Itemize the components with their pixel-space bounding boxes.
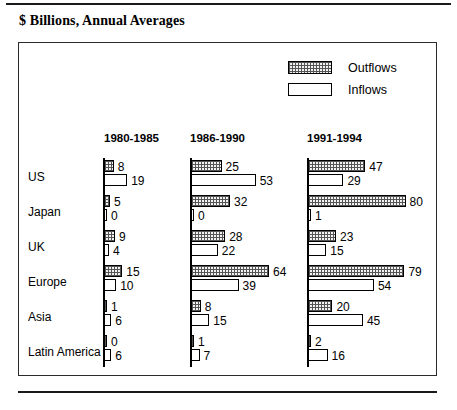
bar-inflow-latin-america-p2: [191, 349, 200, 361]
value-label-inflow-asia-p1: 6: [115, 315, 122, 327]
value-label-outflow-japan-p3: 80: [410, 196, 423, 208]
bar-inflow-europe-p3: [308, 279, 374, 291]
value-label-inflow-uk-p1: 4: [113, 245, 120, 257]
value-label-outflow-japan-p1: 5: [114, 196, 121, 208]
bar-outflow-asia-p1: [104, 300, 107, 312]
bar-outflow-us-p3: [308, 160, 365, 172]
value-label-inflow-latin-america-p3: 16: [332, 350, 345, 362]
value-label-outflow-us-p1: 8: [118, 161, 125, 173]
bar-outflow-us-p1: [104, 160, 114, 172]
bar-outflow-uk-p3: [308, 230, 336, 242]
value-label-outflow-uk-p2: 28: [229, 231, 242, 243]
bar-inflow-uk-p3: [308, 244, 326, 256]
value-label-outflow-uk-p3: 23: [340, 231, 353, 243]
chart-legend: Outflows Inflows: [288, 59, 397, 103]
top-rule: [6, 3, 451, 5]
value-label-inflow-japan-p2: 0: [198, 210, 205, 222]
bar-inflow-europe-p1: [104, 279, 116, 291]
bar-inflow-europe-p2: [191, 279, 239, 291]
bar-outflow-japan-p3: [308, 195, 406, 207]
bar-inflow-us-p2: [191, 174, 256, 186]
bar-inflow-asia-p1: [104, 314, 111, 326]
value-label-outflow-europe-p2: 64: [273, 266, 286, 278]
bar-outflow-latin-america-p3: [308, 335, 311, 347]
value-label-inflow-latin-america-p1: 6: [115, 350, 122, 362]
bottom-rule: [18, 391, 437, 393]
value-label-outflow-europe-p1: 15: [126, 266, 139, 278]
period-header-1: 1980-1985: [104, 132, 159, 144]
period-header-3: 1991-1994: [307, 132, 362, 144]
value-label-inflow-japan-p3: 1: [315, 210, 322, 222]
value-label-outflow-asia-p1: 1: [111, 301, 118, 313]
bar-outflow-japan-p2: [191, 195, 230, 207]
row-label-us: US: [28, 170, 45, 184]
bar-inflow-japan-p3: [308, 209, 311, 221]
bar-inflow-asia-p3: [308, 314, 363, 326]
value-label-inflow-us-p3: 29: [347, 175, 360, 187]
bar-outflow-us-p2: [191, 160, 222, 172]
value-label-outflow-us-p3: 47: [369, 161, 382, 173]
legend-swatch-outflows: [288, 61, 332, 74]
legend-swatch-inflows: [288, 83, 332, 96]
bar-outflow-uk-p1: [104, 230, 115, 242]
value-label-outflow-asia-p2: 8: [205, 301, 212, 313]
value-label-outflow-us-p2: 25: [226, 161, 239, 173]
value-label-outflow-latin-america-p3: 2: [315, 336, 322, 348]
value-label-inflow-uk-p2: 22: [222, 245, 235, 257]
bar-outflow-latin-america-p2: [191, 335, 194, 347]
legend-item-outflows: Outflows: [288, 59, 397, 76]
bar-outflow-europe-p3: [308, 265, 404, 277]
bar-inflow-uk-p2: [191, 244, 218, 256]
value-label-inflow-latin-america-p2: 7: [204, 350, 211, 362]
bar-outflow-uk-p2: [191, 230, 225, 242]
bar-outflow-asia-p2: [191, 300, 201, 312]
row-label-europe: Europe: [28, 275, 67, 289]
value-label-inflow-uk-p3: 15: [330, 245, 343, 257]
legend-item-inflows: Inflows: [288, 81, 397, 98]
bar-inflow-latin-america-p1: [104, 349, 111, 361]
value-label-outflow-uk-p1: 9: [119, 231, 126, 243]
value-label-inflow-asia-p2: 15: [213, 315, 226, 327]
bar-inflow-japan-p2: [191, 209, 194, 221]
value-label-inflow-europe-p3: 54: [378, 280, 391, 292]
value-label-outflow-japan-p2: 32: [234, 196, 247, 208]
row-label-latin-america: Latin America: [28, 345, 101, 359]
value-label-inflow-europe-p1: 10: [120, 280, 133, 292]
value-label-outflow-europe-p3: 79: [408, 266, 421, 278]
bar-inflow-latin-america-p3: [308, 349, 328, 361]
bar-inflow-us-p1: [104, 174, 127, 186]
bar-inflow-japan-p1: [104, 209, 107, 221]
value-label-inflow-asia-p3: 45: [367, 315, 380, 327]
period-header-2: 1986-1990: [190, 132, 245, 144]
legend-label-outflows: Outflows: [348, 61, 397, 75]
bar-outflow-japan-p1: [104, 195, 110, 207]
value-label-inflow-japan-p1: 0: [111, 210, 118, 222]
page-title: $ Billions, Annual Averages: [19, 13, 185, 29]
value-label-outflow-latin-america-p2: 1: [198, 336, 205, 348]
bar-inflow-us-p3: [308, 174, 343, 186]
legend-label-inflows: Inflows: [348, 83, 387, 97]
value-label-outflow-asia-p3: 20: [336, 301, 349, 313]
value-label-outflow-latin-america-p1: 0: [111, 336, 118, 348]
value-label-inflow-europe-p2: 39: [243, 280, 256, 292]
value-label-inflow-us-p1: 19: [131, 175, 144, 187]
bar-outflow-asia-p3: [308, 300, 332, 312]
row-label-uk: UK: [28, 240, 45, 254]
row-label-asia: Asia: [28, 310, 51, 324]
row-label-japan: Japan: [28, 205, 61, 219]
bar-outflow-latin-america-p1: [104, 335, 107, 347]
value-label-inflow-us-p2: 53: [260, 175, 273, 187]
bar-outflow-europe-p1: [104, 265, 122, 277]
bar-inflow-asia-p2: [191, 314, 209, 326]
bar-inflow-uk-p1: [104, 244, 109, 256]
bar-outflow-europe-p2: [191, 265, 269, 277]
